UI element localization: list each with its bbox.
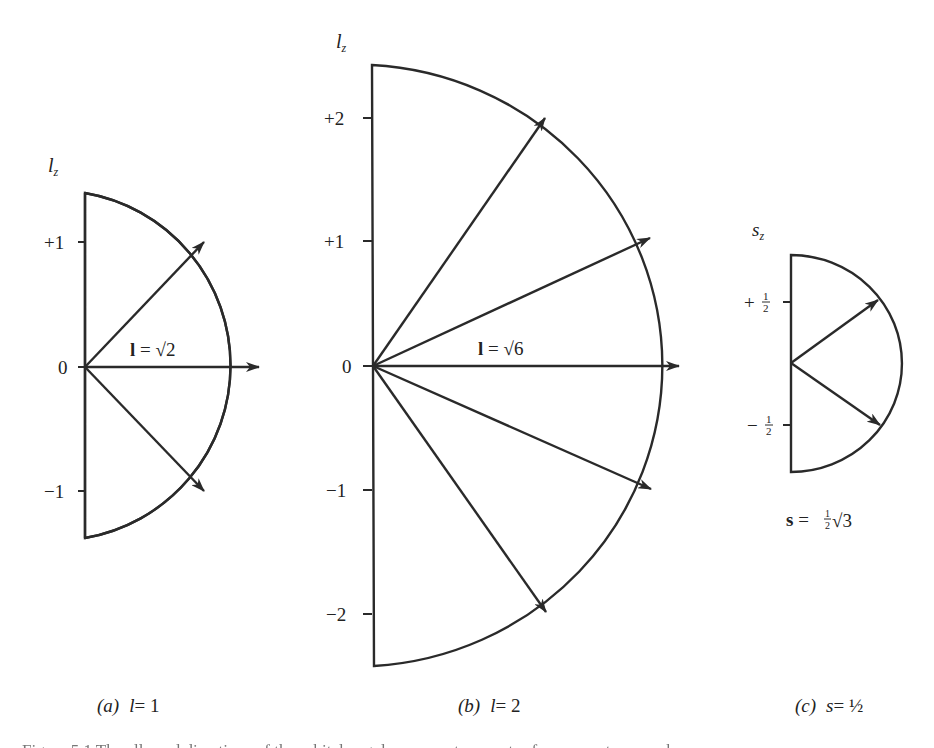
- tick-label-a-zero: 0: [58, 357, 68, 378]
- axis-label-a: lz: [48, 154, 59, 179]
- tick-label-c-minus-half: − 1 2: [747, 413, 773, 437]
- svg-text:−: −: [747, 415, 758, 436]
- tick-label-a-plus1: +1: [44, 232, 64, 253]
- svg-text:2: 2: [825, 520, 830, 531]
- svg-text:+: +: [744, 292, 755, 313]
- tick-label-b-plus1: +1: [324, 231, 344, 252]
- panel-caption-b: (b)l= 2: [458, 695, 520, 717]
- axis-label-c: sz: [752, 219, 764, 243]
- tick-label-c-plus-half: + 1 2: [744, 290, 770, 314]
- vector-magnitude-label-c: s = 1 2 √3: [786, 508, 852, 531]
- svg-text:1: 1: [766, 413, 772, 425]
- vector-b-m-plus2: [373, 118, 545, 366]
- svg-text:1: 1: [763, 290, 769, 302]
- tick-label-b-zero: 0: [342, 356, 352, 377]
- tick-label-a-minus1: −1: [44, 481, 64, 502]
- vector-c-ms-plus-half: [791, 300, 878, 363]
- semicircle-c: [791, 255, 902, 472]
- svg-text:s =: s =: [786, 509, 809, 530]
- svg-text:2: 2: [763, 302, 769, 314]
- panel-c: + 1 2 − 1 2 sz s = 1 2 √3: [744, 219, 902, 717]
- vector-c-ms-minus-half: [791, 363, 880, 425]
- svg-text:1: 1: [825, 508, 830, 519]
- panel-b: +2 +1 0 −1 −2 lz l = √6 (b)l= 2: [324, 30, 679, 717]
- panel-caption-a: (a)l= 1: [97, 695, 159, 717]
- svg-text:2: 2: [766, 425, 772, 437]
- panel-caption-c: (c)s= ½: [795, 695, 863, 717]
- semicircle-a: [85, 193, 231, 538]
- panel-a: +1 0 −1 lz l = √2 (a)l= 1: [44, 154, 259, 717]
- vector-magnitude-label-a: l = √2: [130, 339, 175, 360]
- tick-label-b-minus2: −2: [326, 604, 346, 625]
- angular-momentum-figure: +1 0 −1 lz l = √2 (a)l= 1 +2 +1 0 −1 −2: [0, 0, 934, 748]
- svg-text:√3: √3: [832, 510, 852, 531]
- vector-a-m-minus1: [85, 367, 204, 491]
- vector-magnitude-label-b: l = √6: [478, 338, 523, 359]
- vector-b-m-minus2: [373, 366, 546, 612]
- tick-label-b-minus1: −1: [326, 480, 346, 501]
- axis-label-b: lz: [336, 30, 347, 55]
- vector-b-m-minus1: [373, 366, 651, 489]
- figure-caption-truncated: Figure 5.1 The allowed directions of the…: [0, 736, 934, 748]
- tick-label-b-plus2: +2: [324, 108, 344, 129]
